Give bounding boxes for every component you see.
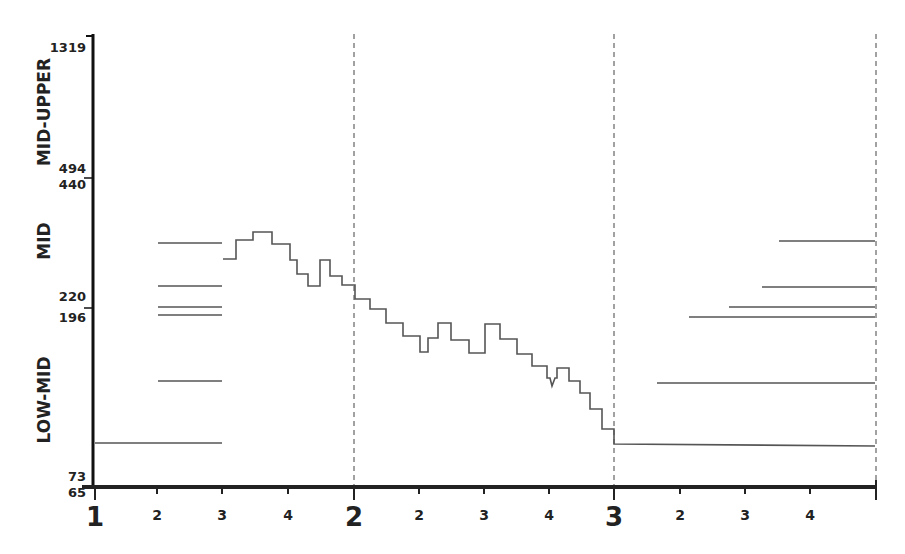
x-tick-label: 3 bbox=[605, 502, 623, 532]
x-tick-label: 4 bbox=[544, 507, 554, 523]
step-trace-line bbox=[223, 232, 875, 446]
x-tick-label: 3 bbox=[217, 507, 227, 523]
y-band-label: MID bbox=[34, 222, 54, 259]
x-tick-label: 2 bbox=[152, 507, 162, 523]
x-tick-label: 2 bbox=[675, 507, 685, 523]
y-tick-label: 65 bbox=[68, 485, 86, 500]
x-tick-label: 3 bbox=[740, 507, 750, 523]
x-tick-label: 3 bbox=[479, 507, 489, 523]
section-dividers bbox=[354, 34, 876, 486]
y-tick-label: 220 bbox=[59, 289, 86, 304]
y-tick-label: 440 bbox=[59, 177, 86, 192]
y-axis-band-labels: MID-UPPERMIDLOW-MID bbox=[34, 58, 54, 444]
step-chart: 13194944402201967365 MID-UPPERMIDLOW-MID… bbox=[0, 0, 905, 554]
y-tick-label: 1319 bbox=[50, 40, 86, 55]
x-tick-label: 4 bbox=[805, 507, 815, 523]
axes bbox=[82, 34, 877, 488]
x-tick-label: 2 bbox=[345, 502, 363, 532]
y-band-label: LOW-MID bbox=[34, 356, 54, 443]
y-tick-label: 196 bbox=[59, 310, 86, 325]
y-axis-ticks: 13194944402201967365 bbox=[50, 40, 93, 500]
x-tick-label: 2 bbox=[414, 507, 424, 523]
x-tick-label: 4 bbox=[283, 507, 293, 523]
y-tick-label: 494 bbox=[59, 161, 86, 176]
y-tick-label: 73 bbox=[68, 469, 86, 484]
y-band-label: MID-UPPER bbox=[34, 58, 54, 166]
x-tick-label: 1 bbox=[86, 502, 104, 532]
